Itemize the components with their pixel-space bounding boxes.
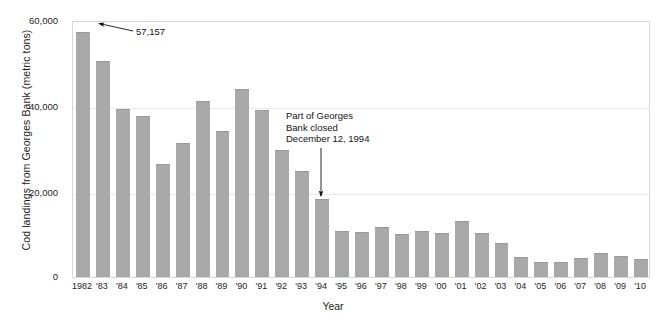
bar-1993	[295, 171, 309, 277]
bar-1991	[255, 110, 269, 277]
bar-1989	[216, 131, 230, 277]
bar-2008	[594, 253, 608, 277]
bar-2001	[455, 221, 469, 277]
y-tick-label-60000: 60,000	[8, 16, 58, 26]
bar-1998	[395, 234, 409, 277]
bar-1984	[116, 109, 130, 277]
bar-1994	[315, 199, 329, 277]
bar-2002	[475, 233, 489, 277]
annotation-peak-value: 57,157	[136, 26, 165, 37]
bar-2004	[514, 257, 528, 277]
y-axis-title: Cod landings from Georges Bank (metric t…	[20, 10, 32, 270]
bar-2003	[495, 243, 509, 277]
y-tick-label-0: 0	[8, 272, 58, 282]
bar-2006	[554, 262, 568, 277]
bar-1987	[176, 143, 190, 278]
bar-1995	[335, 231, 349, 277]
bar-2010	[634, 259, 648, 277]
bar-1992	[275, 150, 289, 277]
bar-1999	[415, 231, 429, 277]
x-axis-title: Year	[0, 300, 666, 312]
y-tick-label-40000: 40,000	[8, 102, 58, 112]
annotation-closure-line1: Part of Georges	[286, 110, 369, 122]
bar-1985	[136, 116, 150, 277]
bar-1982	[76, 32, 90, 277]
bar-1983	[96, 61, 110, 277]
annotation-closure-line3: December 12, 1994	[286, 133, 369, 145]
bar-1986	[156, 164, 170, 278]
bar-1997	[375, 227, 389, 277]
bar-1996	[355, 232, 369, 277]
bar-1990	[235, 89, 249, 277]
annotation-closure-line2: Bank closed	[286, 122, 369, 134]
bar-2009	[614, 256, 628, 277]
x-tick-label-2010: '10	[624, 281, 656, 291]
bar-2007	[574, 258, 588, 277]
plot-area	[72, 21, 650, 278]
cod-landings-bar-chart: Cod landings from Georges Bank (metric t…	[0, 0, 666, 327]
bar-2005	[534, 262, 548, 277]
bar-2000	[435, 233, 449, 277]
annotation-closure-note: Part of Georges Bank closed December 12,…	[286, 110, 369, 145]
y-tick-label-20000: 20,000	[8, 188, 58, 198]
bars-container	[73, 22, 649, 277]
bar-1988	[196, 101, 210, 277]
